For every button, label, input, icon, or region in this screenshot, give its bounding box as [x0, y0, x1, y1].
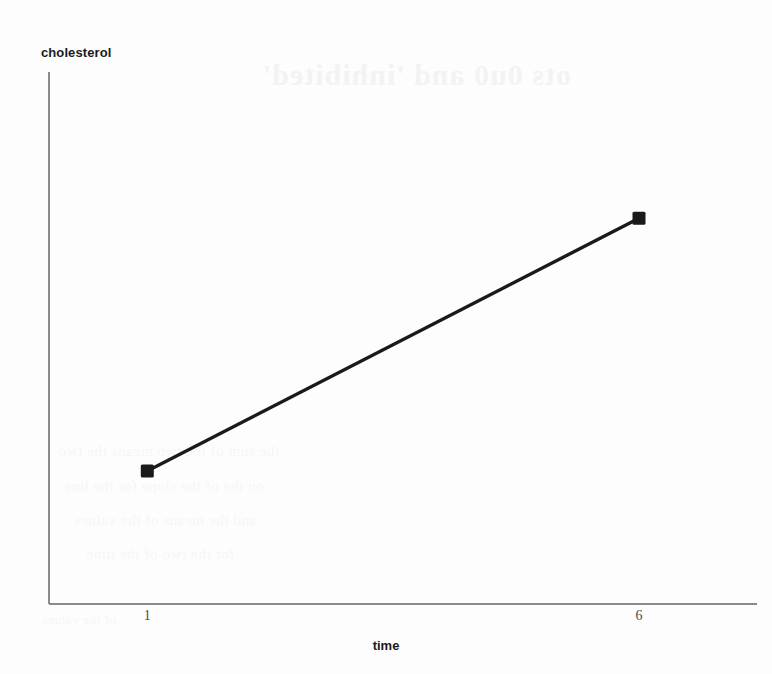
- data-point-marker: [633, 212, 646, 225]
- x-tick-label-1: 1: [127, 608, 167, 624]
- plot-area: cholesterol 1 6 time: [0, 0, 772, 674]
- series-line-cholesterol: [147, 218, 639, 471]
- chart-page: ots 0u0 and 'inhibited' the sum of the t…: [0, 0, 772, 674]
- chart-canvas: [0, 0, 772, 674]
- x-axis-label: time: [0, 638, 772, 653]
- data-point-marker: [141, 465, 154, 478]
- x-tick-label-6: 6: [619, 608, 659, 624]
